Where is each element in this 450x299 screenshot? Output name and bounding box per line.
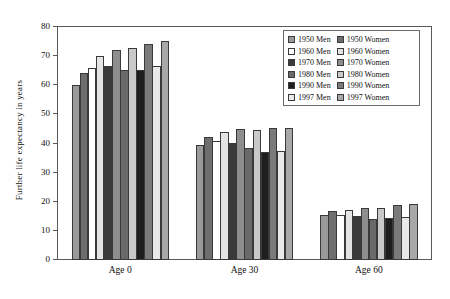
legend-item-men-2[interactable]: 1970 Men <box>288 57 331 69</box>
x-tick-label: Age 60 <box>307 265 431 275</box>
legend-label: 1980 Men <box>298 70 331 79</box>
y-tick-label: 0 <box>46 253 51 265</box>
legend-label: 1960 Women <box>347 47 390 56</box>
x-axis: Age 0Age 30Age 60 <box>58 265 431 285</box>
legend-label: 1960 Men <box>298 47 331 56</box>
bar <box>409 204 417 260</box>
y-tick-label: 10 <box>41 224 50 236</box>
legend-swatch-icon <box>288 82 295 89</box>
legend-item-men-0[interactable]: 1950 Men <box>288 34 331 46</box>
legend-swatch-icon <box>288 59 295 66</box>
legend-label: 1970 Women <box>347 58 390 67</box>
legend-column-women: 1950 Women1960 Women1970 Women1980 Women… <box>337 34 390 103</box>
legend-item-men-3[interactable]: 1980 Men <box>288 69 331 81</box>
bar <box>161 41 169 260</box>
y-tick-label: 20 <box>41 195 50 207</box>
legend-swatch-icon <box>337 48 344 55</box>
y-tick-label: 60 <box>41 78 50 90</box>
legend-swatch-icon <box>288 94 295 101</box>
legend-label: 1970 Men <box>298 58 331 67</box>
legend-swatch-icon <box>288 48 295 55</box>
legend-item-men-1[interactable]: 1960 Men <box>288 46 331 58</box>
legend-label: 1980 Women <box>347 70 390 79</box>
legend-item-women-0[interactable]: 1950 Women <box>337 34 390 46</box>
bar-group <box>72 27 169 260</box>
legend-swatch-icon <box>337 71 344 78</box>
legend-item-men-5[interactable]: 1997 Men <box>288 92 331 104</box>
x-tick-label: Age 0 <box>58 265 182 275</box>
bar-group <box>196 27 293 260</box>
legend-swatch-icon <box>288 36 295 43</box>
legend-item-women-5[interactable]: 1997 Women <box>337 92 390 104</box>
legend-label: 1950 Women <box>347 35 390 44</box>
legend-label: 1997 Men <box>298 93 331 102</box>
x-tick-label: Age 30 <box>182 265 306 275</box>
legend-item-women-3[interactable]: 1980 Women <box>337 69 390 81</box>
y-axis: 01020304050607080 <box>0 26 57 260</box>
y-tick-label: 30 <box>41 166 50 178</box>
y-tick-label: 70 <box>41 49 50 61</box>
y-tick-label: 50 <box>41 107 50 119</box>
legend-column-men: 1950 Men1960 Men1970 Men1980 Men1990 Men… <box>288 34 331 103</box>
legend-swatch-icon <box>288 71 295 78</box>
y-tick-label: 80 <box>41 20 50 32</box>
y-tick-label: 40 <box>41 137 50 149</box>
bar-chart: Further life expectancy in years 0102030… <box>0 0 450 299</box>
legend-swatch-icon <box>337 59 344 66</box>
legend-item-men-4[interactable]: 1990 Men <box>288 80 331 92</box>
legend-label: 1990 Men <box>298 81 331 90</box>
bar <box>285 128 293 260</box>
legend-label: 1950 Men <box>298 35 331 44</box>
legend-item-women-1[interactable]: 1960 Women <box>337 46 390 58</box>
legend-swatch-icon <box>337 36 344 43</box>
legend-item-women-2[interactable]: 1970 Women <box>337 57 390 69</box>
legend-item-women-4[interactable]: 1990 Women <box>337 80 390 92</box>
legend-swatch-icon <box>337 82 344 89</box>
legend: 1950 Men1960 Men1970 Men1980 Men1990 Men… <box>283 30 420 106</box>
legend-label: 1990 Women <box>347 81 390 90</box>
legend-swatch-icon <box>337 94 344 101</box>
legend-label: 1997 Women <box>347 93 390 102</box>
